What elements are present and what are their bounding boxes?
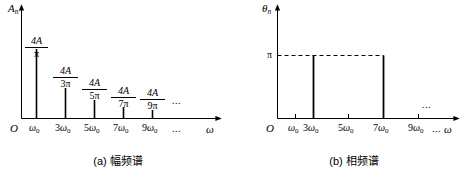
- x-tick-label-1: ω0: [288, 123, 299, 133]
- origin-label: O: [266, 123, 274, 134]
- x-tick-label-3: 3ω0: [55, 123, 71, 133]
- y-axis-label: An: [8, 3, 18, 14]
- x-axis-ellipsis: ...: [432, 124, 441, 134]
- x-tick-label-5: 5ω0: [338, 123, 354, 133]
- stem-value-label-9: 4A 9π: [140, 88, 165, 111]
- x-axis-label: ω: [444, 124, 452, 135]
- y-axis-label: θn: [262, 3, 271, 14]
- x-tick-label-1: ω0: [29, 123, 40, 133]
- x-tick-label-3: 3ω0: [303, 123, 319, 133]
- spectrum-figure: An ω O ω0 3ω0 5ω0 7ω0 9ω0 ... 4A π 4A 3π…: [0, 0, 472, 179]
- panel-amplitude-spectrum: An ω O ω0 3ω0 5ω0 7ω0 9ω0 ... 4A π 4A 3π…: [0, 0, 236, 179]
- stem-value-label-3: 4A 3π: [53, 66, 78, 89]
- plot-ellipsis: ...: [422, 100, 431, 110]
- stem-value-label-1: 4A π: [25, 36, 48, 59]
- x-axis-ellipsis: ...: [172, 124, 181, 134]
- x-axis-label: ω: [206, 124, 214, 135]
- panel-a-caption: (a) 幅频谱: [0, 152, 236, 168]
- stem-value-label-5: 4A 5π: [82, 78, 107, 101]
- y-tick-label-pi: π: [267, 50, 272, 60]
- panel-b-caption: (b) 相频谱: [236, 152, 472, 168]
- x-tick-label-9: 9ω0: [142, 123, 158, 133]
- origin-label: O: [10, 123, 18, 134]
- stem-labels-ellipsis: ...: [172, 96, 181, 106]
- stem-value-label-7: 4A 7π: [111, 86, 136, 109]
- x-tick-label-9: 9ω0: [408, 123, 424, 133]
- x-tick-label-5: 5ω0: [84, 123, 100, 133]
- x-tick-label-7: 7ω0: [113, 123, 129, 133]
- x-tick-label-7: 7ω0: [373, 123, 389, 133]
- panel-phase-spectrum: θn π ω O ω0 3ω0 5ω0 7ω0 9ω0 ... ... (b) …: [236, 0, 472, 179]
